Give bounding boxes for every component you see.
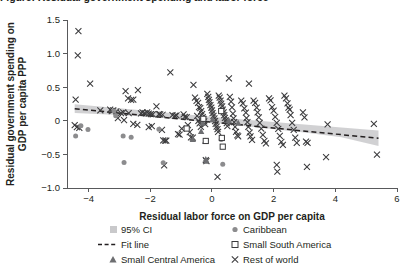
x-tick-label: −4 [83,193,94,204]
y-tick-label: 0 [55,115,60,126]
legend-item-small-south-america[interactable]: Small South America [232,239,332,250]
legend-label: Rest of world [243,254,298,265]
x-tick-label: 2 [271,193,276,204]
legend-item-rest-of-world[interactable]: Rest of world [232,254,299,265]
x-tick-label: 4 [333,193,338,204]
x-tick-label: 6 [394,193,399,204]
filled-circle-icon [232,227,237,232]
x-axis-title: Residual labor force on GDP per capita [139,211,325,222]
y-axis-title-line2: GDP per capita PPP [17,57,28,152]
y-tick-label: −1.0 [41,182,60,193]
series-rest-of-world [72,28,380,180]
filled-triangle-icon [109,256,116,263]
y-tick-label: −0.5 [41,149,60,160]
data-points [72,28,380,180]
legend-label: Caribbean [243,224,287,235]
figure-title-partial: Figure: Residual government spending and… [0,0,405,3]
x-tick-label: 0 [209,193,214,204]
legend-item-fit-line[interactable]: Fit line [98,239,149,250]
y-axis-title-line1: Residual government spending on [5,22,16,186]
legend-item-caribbean[interactable]: Caribbean [232,224,286,235]
y-tick-label: 1.0 [47,48,60,59]
figure-container: Figure: Residual government spending and… [0,0,405,271]
y-tick-label: 1.5 [47,14,60,25]
y-tick-label: 0.5 [47,82,60,93]
chart-legend[interactable]: 95% CIFit lineSmall Central AmericaCarib… [98,224,332,265]
ci-swatch-icon [110,226,117,233]
legend-label: Small Central America [121,254,216,265]
cross-icon [232,256,238,262]
legend-item-small-central-america[interactable]: Small Central America [109,254,215,265]
legend-label: Fit line [121,239,149,250]
x-tick-label: −2 [145,193,156,204]
legend-label: 95% CI [121,224,152,235]
scatter-chart: 1.51.00.50−0.5−1.0−4−20246 Residual labo… [0,0,405,271]
legend-label: Small South America [243,239,332,250]
open-square-icon [232,242,238,248]
legend-item-95-ci[interactable]: 95% CI [110,224,152,235]
